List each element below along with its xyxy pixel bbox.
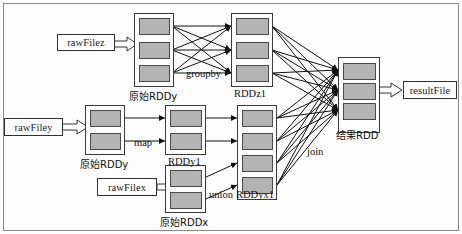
- partition: [139, 18, 170, 35]
- op-label-union: union: [209, 189, 233, 200]
- partition: [236, 42, 269, 59]
- file-label-rawFiley: rawFiley: [14, 122, 52, 133]
- rdd-group-RDDz1[interactable]: [231, 13, 273, 87]
- caption-origRDDy-top: 原始RDDy: [129, 88, 177, 103]
- op-label-groupby: groupby: [186, 68, 221, 79]
- file-label-resultFile: resultFile: [410, 85, 451, 96]
- partition: [170, 192, 202, 209]
- file-label-rawFilez: rawFilez: [67, 37, 105, 48]
- op-label-map: map: [134, 137, 152, 148]
- partition: [170, 170, 202, 187]
- rdd-group-origRDDy[interactable]: [85, 105, 125, 155]
- partition: [242, 110, 273, 127]
- caption-resultRDD: 结果RDD: [336, 127, 378, 142]
- partition: [242, 155, 273, 172]
- caption-RDDz1: RDDz1: [234, 88, 266, 99]
- partition: [170, 110, 202, 127]
- rdd-group-resultRDD[interactable]: [338, 57, 380, 133]
- partition: [343, 103, 376, 120]
- file-box-rawFilex[interactable]: rawFilex: [97, 178, 157, 196]
- caption-RDDy1: RDDy1: [168, 156, 201, 167]
- file-box-resultFile[interactable]: resultFile: [403, 81, 457, 99]
- file-box-rawFilez[interactable]: rawFilez: [57, 34, 115, 51]
- partition: [90, 133, 121, 150]
- partition: [242, 133, 273, 150]
- partition: [139, 65, 170, 82]
- partition: [343, 63, 376, 80]
- rdd-group-origRDDx[interactable]: [165, 165, 206, 213]
- partition: [170, 133, 202, 150]
- partition: [236, 65, 269, 82]
- partition: [90, 110, 121, 127]
- partition: [236, 18, 269, 35]
- caption-origRDDx: 原始RDDx: [160, 214, 208, 229]
- partition: [343, 83, 376, 100]
- rdd-lineage-diagram: rawFilez rawFiley rawFilex resultFile 原始…: [0, 0, 462, 234]
- file-box-rawFiley[interactable]: rawFiley: [4, 118, 63, 136]
- caption-RDDyx1: RDDyx1: [236, 189, 274, 200]
- caption-origRDDy: 原始RDDy: [80, 156, 128, 171]
- rdd-group-RDDyx1[interactable]: [237, 105, 277, 200]
- partition: [139, 42, 170, 59]
- file-label-rawFilex: rawFilex: [108, 182, 146, 193]
- op-label-join: join: [307, 146, 323, 157]
- rdd-group-origRDDy-top[interactable]: [134, 13, 174, 87]
- rdd-group-RDDy1[interactable]: [165, 105, 206, 155]
